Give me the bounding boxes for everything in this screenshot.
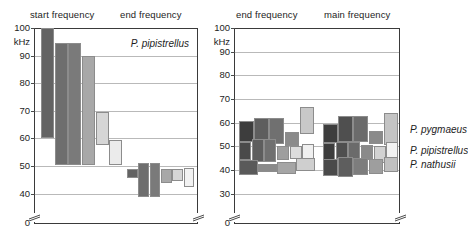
species-label-P-pipistrellus: P. pipistrellus bbox=[410, 145, 468, 156]
axis-break-right bbox=[193, 208, 204, 217]
bat-frequency-figure: start frequency end frequency P. pipistr… bbox=[0, 0, 468, 250]
bar-main-frequency-P-pygmaeus-1 bbox=[323, 124, 338, 143]
bar-start-frequency-3 bbox=[68, 43, 81, 164]
axis-break-left bbox=[29, 208, 40, 217]
y-axis-unit-label-right: kHz bbox=[200, 36, 230, 47]
bar-end-frequency-P-pipistrellus-3 bbox=[264, 139, 276, 161]
y-tick-80 bbox=[31, 83, 35, 84]
inset-species-label: P. pipistrellus bbox=[131, 38, 189, 49]
gridline-40 bbox=[35, 194, 197, 195]
plot-bottom-border-right bbox=[235, 223, 399, 224]
y-axis-unit-label: kHz bbox=[0, 36, 30, 47]
y-tick-right-60 bbox=[231, 123, 235, 124]
bar-end-frequency-P-pipistrellus-2 bbox=[252, 139, 264, 161]
y-tick-right-30 bbox=[231, 194, 235, 195]
y-tick-right-100 bbox=[231, 28, 235, 29]
plot-area-left: P. pipistrellus bbox=[34, 28, 198, 224]
y-axis-label-right-90: 90 bbox=[200, 46, 230, 57]
y-axis-label-right-40: 40 bbox=[200, 164, 230, 175]
gridline-right-90 bbox=[235, 52, 399, 53]
bar-main-frequency-P-pygmaeus-5 bbox=[384, 113, 399, 145]
header-main-frequency: main frequency bbox=[324, 9, 390, 20]
bar-main-frequency-P-pygmaeus-3 bbox=[353, 116, 368, 142]
y-axis-label-right-30: 30 bbox=[200, 188, 230, 199]
y-tick-50 bbox=[31, 166, 35, 167]
bar-end-frequency-P-pygmaeus-5 bbox=[300, 107, 315, 134]
plot-bottom-border bbox=[35, 223, 197, 224]
bar-end-frequency-P-nathusii-3 bbox=[277, 162, 296, 174]
bar-start-frequency-2 bbox=[55, 43, 68, 164]
y-axis-label-right-70: 70 bbox=[200, 93, 230, 104]
bar-end-frequency-2 bbox=[138, 163, 149, 197]
bar-main-frequency-P-nathusii-4 bbox=[369, 159, 384, 173]
bar-start-frequency-4 bbox=[82, 56, 95, 165]
y-axis-label-70: 70 bbox=[0, 105, 30, 116]
panel-p-pipistrellus: start frequency end frequency P. pipistr… bbox=[0, 0, 210, 250]
bar-main-frequency-P-pygmaeus-4 bbox=[369, 131, 384, 144]
bar-main-frequency-P-nathusii-1 bbox=[323, 159, 338, 176]
bar-start-frequency-1 bbox=[41, 28, 54, 138]
y-tick-90 bbox=[31, 56, 35, 57]
gridline-right-80 bbox=[235, 75, 399, 76]
gridline-right-70 bbox=[235, 99, 399, 100]
axis-break-right-left bbox=[229, 208, 240, 217]
species-label-P-pygmaeus: P. pygmaeus bbox=[410, 124, 467, 135]
bar-main-frequency-P-nathusii-3 bbox=[353, 158, 368, 175]
y-tick-60 bbox=[31, 138, 35, 139]
header-end-frequency-right: end frequency bbox=[236, 9, 298, 20]
bar-end-frequency-P-nathusii-1 bbox=[239, 160, 258, 174]
plot-area-right bbox=[234, 28, 400, 224]
bar-end-frequency-P-pygmaeus-4 bbox=[285, 132, 300, 146]
y-axis-label-right-60: 60 bbox=[200, 117, 230, 128]
plot-top-border bbox=[35, 28, 197, 29]
y-axis-label-right-50: 50 bbox=[200, 140, 230, 151]
header-start-frequency: start frequency bbox=[30, 9, 94, 20]
bar-end-frequency-4 bbox=[161, 169, 172, 182]
bar-end-frequency-P-pipistrellus-1 bbox=[239, 142, 251, 161]
y-axis-label-40: 40 bbox=[0, 188, 30, 199]
y-tick-right-90 bbox=[231, 52, 235, 53]
y-axis-label-right-100: 100 bbox=[200, 22, 230, 33]
bar-end-frequency-3 bbox=[150, 163, 161, 197]
bar-start-frequency-6 bbox=[109, 140, 122, 165]
y-axis-label-90: 90 bbox=[0, 50, 30, 61]
y-tick-right-80 bbox=[231, 75, 235, 76]
panel-three-species: end frequency main frequency 30405060708… bbox=[228, 0, 468, 250]
y-axis-label-50: 50 bbox=[0, 160, 30, 171]
gridline-50 bbox=[35, 166, 197, 167]
y-tick-right-50 bbox=[231, 146, 235, 147]
y-axis-label-right-80: 80 bbox=[200, 69, 230, 80]
axis-break-right-right bbox=[395, 208, 406, 217]
y-axis-label-60: 60 bbox=[0, 132, 30, 143]
header-end-frequency: end frequency bbox=[120, 9, 182, 20]
y-tick-right-40 bbox=[231, 170, 235, 171]
y-axis-label-100: 100 bbox=[0, 22, 30, 33]
bar-end-frequency-P-nathusii-2 bbox=[258, 164, 277, 172]
bar-end-frequency-P-nathusii-4 bbox=[296, 158, 315, 171]
y-axis-label-80: 80 bbox=[0, 77, 30, 88]
species-label-P-nathusii: P. nathusii bbox=[410, 159, 455, 170]
y-axis-label-zero: 0 bbox=[0, 217, 30, 228]
bar-end-frequency-1 bbox=[127, 169, 138, 179]
y-axis-label-right-zero: 0 bbox=[200, 217, 230, 228]
bar-main-frequency-P-nathusii-2 bbox=[338, 157, 353, 177]
y-tick-right-70 bbox=[231, 99, 235, 100]
bar-end-frequency-6 bbox=[184, 168, 195, 186]
bar-main-frequency-P-nathusii-5 bbox=[384, 157, 399, 172]
y-tick-40 bbox=[31, 194, 35, 195]
bar-main-frequency-P-pygmaeus-2 bbox=[338, 116, 353, 142]
plot-top-border-right bbox=[235, 28, 399, 29]
gridline-right-30 bbox=[235, 194, 399, 195]
y-tick-70 bbox=[31, 111, 35, 112]
bar-start-frequency-5 bbox=[96, 112, 109, 145]
y-tick-100 bbox=[31, 28, 35, 29]
bar-end-frequency-5 bbox=[172, 169, 183, 181]
bar-end-frequency-P-pipistrellus-4 bbox=[277, 146, 289, 160]
